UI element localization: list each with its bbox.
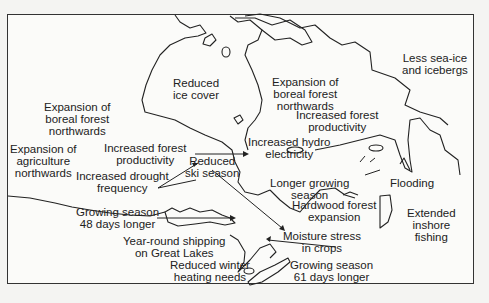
label-longer-growing: Longer growing season [270,177,349,201]
label-flooding: Flooding [390,177,434,189]
label-growing-48: Growing season 48 days longer [76,206,159,230]
label-heating: Reduced winter heating needs [170,259,250,283]
label-boreal-west: Expansion of boreal forest northwards [44,101,111,137]
label-ice-cover: Reduced ice cover [173,77,219,101]
label-agriculture: Expansion of agriculture northwards [10,143,77,179]
label-sea-ice: Less sea-ice and icebergs [402,52,468,76]
label-hardwood: Hardwood forest expansion [292,199,376,223]
label-growing-61: Growing season 61 days longer [290,259,373,283]
flooding-lines [360,156,375,162]
arctic-island [203,34,216,46]
label-moisture: Moisture stress in crops [283,230,361,254]
lake-superior [165,208,235,226]
lake-winnipeg-north [234,115,243,124]
label-shipping: Year-round shipping on Great Lakes [123,235,226,259]
nova-scotia [380,195,392,228]
label-fishing: Extended inshore fishing [407,207,456,243]
arctic-island-small [222,47,230,57]
label-ski: Reduced ski season [185,155,239,179]
label-forest-prod-west: Increased forest productivity [104,142,186,166]
label-hydro: Increased hydro electricity [248,136,330,160]
label-forest-prod-east: Increased forest productivity [296,109,378,133]
arrow-flooding [365,170,380,175]
hudson-bay-east [230,16,262,150]
label-drought: Increased drought frequency [76,170,169,194]
lake-east [369,145,383,151]
label-boreal-east: Expansion of boreal forest northwards [272,76,339,112]
arctic-coast-top [235,18,312,45]
